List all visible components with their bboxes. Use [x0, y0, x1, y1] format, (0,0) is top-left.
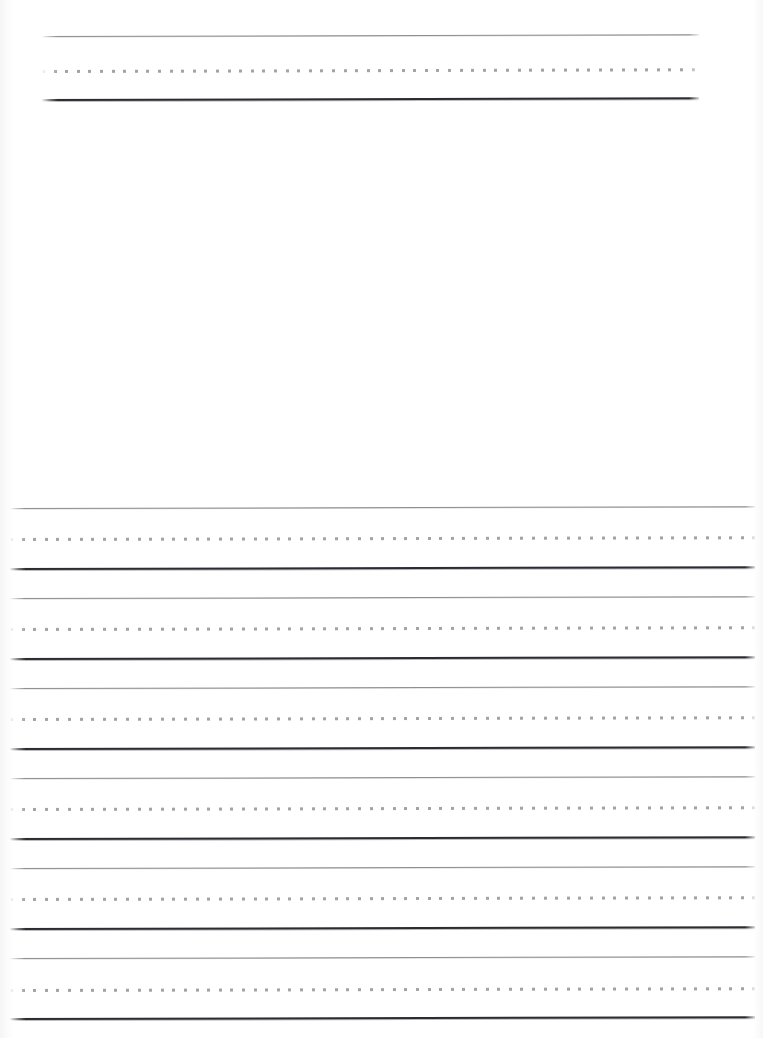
- top-rule: [10, 956, 755, 959]
- dotted-midline: [10, 536, 755, 541]
- body-writing-lines-section: [0, 0, 763, 1038]
- top-rule: [10, 596, 755, 599]
- top-rule: [10, 776, 755, 779]
- dotted-midline: [10, 806, 755, 811]
- dotted-midline: [10, 896, 755, 901]
- baseline: [10, 566, 755, 570]
- baseline: [10, 836, 755, 840]
- baseline: [10, 656, 755, 660]
- dotted-midline: [10, 626, 755, 631]
- baseline: [10, 746, 755, 750]
- baseline: [10, 926, 755, 930]
- top-rule: [10, 686, 755, 689]
- dotted-midline: [10, 716, 755, 721]
- dotted-midline: [10, 987, 755, 992]
- top-rule: [10, 866, 755, 869]
- baseline: [10, 1016, 755, 1020]
- top-rule: [10, 506, 755, 509]
- worksheet-page: [0, 0, 763, 1038]
